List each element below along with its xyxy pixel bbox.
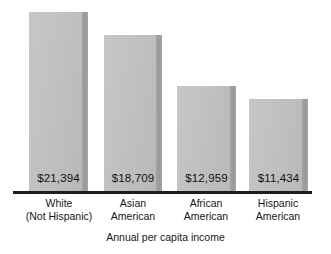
- bar-value-label: $11,434: [249, 172, 308, 184]
- category-label-line2: American: [233, 210, 323, 223]
- category-label-hispanic-american: Hispanic American: [233, 197, 323, 222]
- bar-hispanic-american: $11,434: [249, 99, 308, 194]
- x-axis-title: Annual per capita income: [0, 231, 331, 243]
- bar-side-edge: [156, 35, 162, 194]
- bar-face: [29, 12, 82, 194]
- x-axis-line: [13, 191, 312, 194]
- category-label-line1: Hispanic: [233, 197, 323, 210]
- bar-asian-american: $18,709: [104, 35, 162, 194]
- bar-value-label: $12,959: [177, 172, 236, 184]
- bar-white-not-hispanic: $21,394: [29, 12, 88, 194]
- bar-side-edge: [82, 12, 88, 194]
- bar-african-american: $12,959: [177, 86, 236, 194]
- bar-face: [104, 35, 156, 194]
- bar-chart: $21,394 $18,709 $12,959 $11,434 White (N…: [0, 0, 331, 254]
- plot-area: $21,394 $18,709 $12,959 $11,434: [0, 0, 331, 194]
- bar-value-label: $18,709: [104, 172, 162, 184]
- bar-value-label: $21,394: [29, 172, 88, 184]
